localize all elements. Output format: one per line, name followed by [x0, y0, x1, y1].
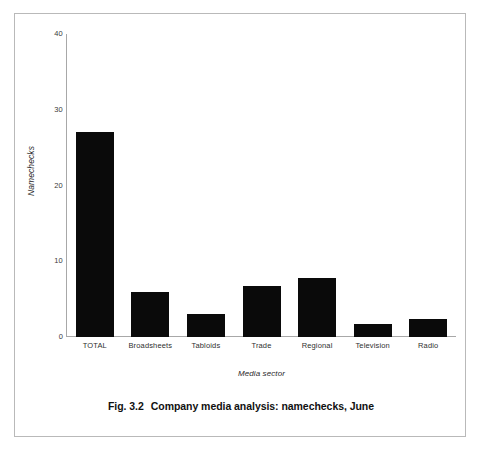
y-tick-label: 0 [29, 333, 63, 341]
bar [243, 286, 281, 338]
bar [354, 324, 392, 337]
bar [187, 314, 225, 337]
figure-frame: 010203040 Namechecks TOTALBroadsheetsTab… [14, 13, 466, 437]
caption-number: Fig. 3.2 [108, 400, 144, 412]
x-tick-label: Radio [392, 342, 464, 350]
bar [298, 278, 336, 337]
bar-chart: 010203040 Namechecks TOTALBroadsheetsTab… [15, 14, 467, 438]
bar [131, 292, 169, 337]
caption-title: Company media analysis: namechecks, June [151, 400, 374, 412]
plot-area [67, 34, 456, 337]
bar [76, 132, 114, 337]
x-axis-title: Media sector [67, 369, 456, 378]
figure-caption: Fig. 3.2Company media analysis: namechec… [15, 400, 467, 412]
y-tick-label: 30 [29, 106, 63, 114]
bar [409, 319, 447, 337]
x-axis-tick-labels: TOTALBroadsheetsTabloidsTradeRegionalTel… [67, 342, 456, 358]
y-tick-label: 10 [29, 257, 63, 265]
y-axis-title: Namechecks [26, 121, 36, 221]
y-tick-label: 40 [29, 30, 63, 38]
